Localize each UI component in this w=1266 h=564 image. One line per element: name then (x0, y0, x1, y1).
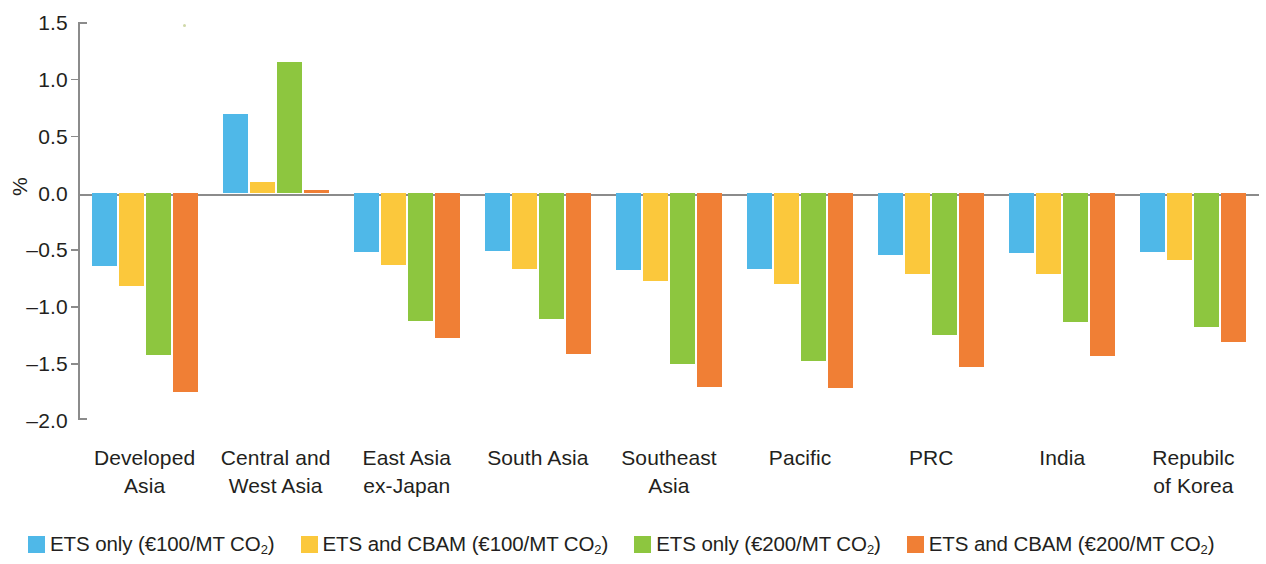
x-axis-label-line: Developed (79, 444, 210, 472)
legend-label-main: ETS only (€200/MT CO (656, 532, 867, 555)
bar-group (866, 22, 997, 420)
bar[interactable] (697, 193, 722, 387)
x-axis-label-line: Central and (210, 444, 341, 472)
bar[interactable] (932, 193, 957, 335)
bar-group (79, 22, 210, 420)
bar[interactable] (1221, 193, 1246, 342)
legend-label-tail: ) (1208, 532, 1215, 555)
legend-label-main: ETS and CBAM (€100/MT CO (323, 532, 595, 555)
bar[interactable] (92, 193, 117, 267)
bar[interactable] (774, 193, 799, 284)
bar[interactable] (173, 193, 198, 392)
bar[interactable] (1063, 193, 1088, 323)
x-axis-label-line: Repubilc (1128, 444, 1259, 472)
y-tick-label: 0.5 (6, 126, 68, 147)
bar[interactable] (747, 193, 772, 269)
x-axis-label-line: of Korea (1128, 472, 1259, 500)
x-axis-label: Pacific (735, 444, 866, 472)
legend-label-subscript: 2 (594, 542, 601, 557)
x-axis-label-line: Asia (79, 472, 210, 500)
legend-swatch-icon (28, 536, 45, 553)
legend-swatch-icon (634, 536, 651, 553)
x-axis-label: DevelopedAsia (79, 444, 210, 500)
x-axis-label-line: PRC (866, 444, 997, 472)
bar[interactable] (1036, 193, 1061, 275)
bar[interactable] (878, 193, 903, 256)
legend-label: ETS and CBAM (€100/MT CO2) (323, 532, 609, 556)
legend-label: ETS only (€100/MT CO2) (50, 532, 275, 556)
bar[interactable] (435, 193, 460, 339)
x-axis-label-line: Pacific (735, 444, 866, 472)
bar[interactable] (146, 193, 171, 356)
bar[interactable] (828, 193, 853, 389)
legend-label-subscript: 2 (261, 542, 268, 557)
bar[interactable] (616, 193, 641, 270)
bar-group (1128, 22, 1259, 420)
bar[interactable] (485, 193, 510, 251)
legend-swatch-icon (301, 536, 318, 553)
x-axis-category-labels: DevelopedAsiaCentral andWest AsiaEast As… (79, 444, 1259, 514)
legend-item[interactable]: ETS and CBAM (€200/MT CO2) (907, 532, 1215, 556)
bar[interactable] (905, 193, 930, 275)
bar-group (472, 22, 603, 420)
y-tick-label: –1.5 (6, 353, 68, 374)
legend-item[interactable]: ETS only (€100/MT CO2) (28, 532, 275, 556)
y-tick-label: –0.5 (6, 239, 68, 260)
legend-label-tail: ) (268, 532, 275, 555)
legend-label: ETS and CBAM (€200/MT CO2) (929, 532, 1215, 556)
bar[interactable] (539, 193, 564, 319)
x-axis-label-line: South Asia (472, 444, 603, 472)
bar[interactable] (670, 193, 695, 365)
bar[interactable] (959, 193, 984, 367)
bar[interactable] (1140, 193, 1165, 252)
y-tick-mark (71, 136, 79, 138)
legend-label-subscript: 2 (1201, 542, 1208, 557)
x-axis-label: PRC (866, 444, 997, 472)
bar[interactable] (1090, 193, 1115, 357)
bar[interactable] (643, 193, 668, 282)
bar[interactable] (566, 193, 591, 354)
y-tick-label: –1.0 (6, 296, 68, 317)
x-axis-label-line: Southeast (603, 444, 734, 472)
y-tick-mark (71, 363, 79, 365)
bar-group (341, 22, 472, 420)
bar-group (210, 22, 341, 420)
bar[interactable] (1167, 193, 1192, 260)
bar[interactable] (354, 193, 379, 252)
bar[interactable] (277, 62, 302, 193)
y-tick-label: 1.0 (6, 69, 68, 90)
bar[interactable] (250, 182, 275, 192)
x-axis-label: East Asiaex-Japan (341, 444, 472, 500)
legend-item[interactable]: ETS and CBAM (€100/MT CO2) (301, 532, 609, 556)
x-axis-label-line: India (997, 444, 1128, 472)
bar[interactable] (304, 190, 329, 192)
bar[interactable] (119, 193, 144, 286)
bar[interactable] (381, 193, 406, 266)
bar[interactable] (801, 193, 826, 361)
y-axis-tick-labels: 1.51.00.50.0–0.5–1.0–1.5–2.0 (0, 0, 68, 564)
x-axis-label-line: Asia (603, 472, 734, 500)
bar[interactable] (1194, 193, 1219, 327)
x-axis-label: South Asia (472, 444, 603, 472)
legend-label-tail: ) (601, 532, 608, 555)
x-axis-label: Repubilcof Korea (1128, 444, 1259, 500)
plot-area (79, 22, 1259, 420)
x-axis-label-line: West Asia (210, 472, 341, 500)
chart-legend: ETS only (€100/MT CO2)ETS and CBAM (€100… (0, 524, 1266, 564)
y-tick-mark (71, 79, 79, 81)
legend-item[interactable]: ETS only (€200/MT CO2) (634, 532, 881, 556)
bar[interactable] (1009, 193, 1034, 253)
x-axis-label: Central andWest Asia (210, 444, 341, 500)
legend-label-main: ETS only (€100/MT CO (50, 532, 261, 555)
bar[interactable] (512, 193, 537, 269)
y-tick-label: 0.0 (6, 183, 68, 204)
y-tick-label: –2.0 (6, 410, 68, 431)
bar[interactable] (223, 114, 248, 192)
x-axis-label-line: ex-Japan (341, 472, 472, 500)
bar[interactable] (408, 193, 433, 321)
legend-label: ETS only (€200/MT CO2) (656, 532, 881, 556)
x-axis-label: SoutheastAsia (603, 444, 734, 500)
legend-swatch-icon (907, 536, 924, 553)
bar-group (997, 22, 1128, 420)
x-axis-label-line: East Asia (341, 444, 472, 472)
